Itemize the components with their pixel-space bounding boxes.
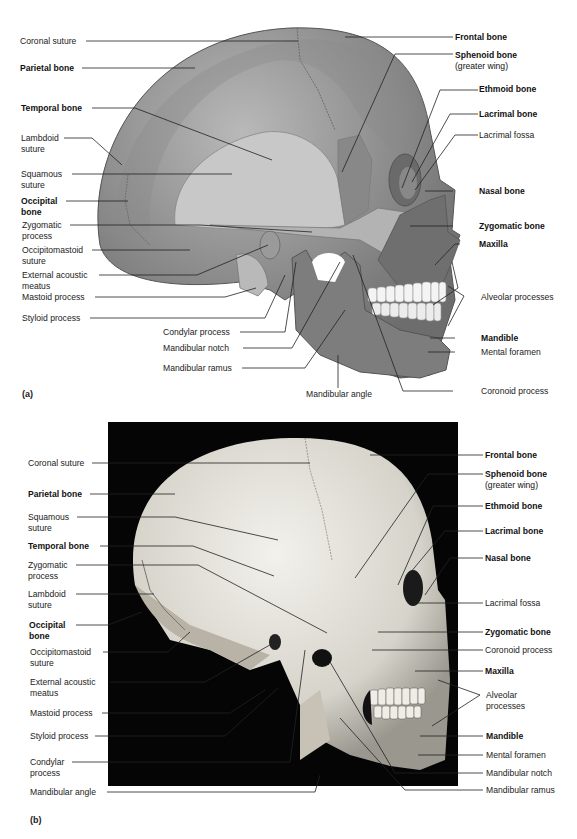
label-ethmoid-bone-a: Ethmoid bone bbox=[479, 84, 536, 95]
label-zygomatic-process-b: Zygomaticprocess bbox=[28, 560, 68, 581]
label-styloid-process-b: Styloid process bbox=[30, 731, 88, 742]
label-occipitomastoid-suture-b: Occipitomastoidsuture bbox=[30, 647, 91, 668]
label-lambdoid-suture-b: Lambdoidsuture bbox=[28, 589, 66, 610]
label-squamous-suture-b: Squamoussuture bbox=[28, 512, 69, 533]
label-lacrimal-bone-a: Lacrimal bone bbox=[479, 109, 537, 120]
label-sphenoid-bone-b: Sphenoid bone(greater wing) bbox=[485, 469, 547, 490]
label-alveolar-processes-b: Alveolarprocesses bbox=[486, 690, 525, 711]
label-zygomatic-process-a: Zygomaticprocess bbox=[22, 220, 62, 241]
label-styloid-process-a: Styloid process bbox=[22, 313, 80, 324]
label-frontal-bone-a: Frontal bone bbox=[455, 32, 507, 43]
label-nasal-bone-b: Nasal bone bbox=[485, 553, 531, 564]
label-occipital-bone-b: Occipitalbone bbox=[29, 620, 65, 641]
label-mandible-b: Mandible bbox=[486, 731, 523, 742]
label-external-acoustic-meatus-a: External acousticmeatus bbox=[22, 270, 87, 291]
label-temporal-bone-b: Temporal bone bbox=[28, 541, 89, 552]
label-lacrimal-bone-b: Lacrimal bone bbox=[485, 526, 543, 537]
label-coronoid-process-b: Coronoid process bbox=[485, 645, 552, 656]
label-mental-foramen-a: Mental foramen bbox=[481, 347, 541, 358]
label-lacrimal-fossa-a: Lacrimal fossa bbox=[479, 130, 534, 141]
label-coronal-suture-b: Coronal suture bbox=[28, 458, 84, 469]
label-mastoid-process-b: Mastoid process bbox=[30, 708, 93, 719]
label-coronoid-process-a: Coronoid process bbox=[481, 386, 548, 397]
label-lambdoid-suture-a: Lambdoidsuture bbox=[21, 133, 59, 154]
label-occipital-bone-a: Occipitalbone bbox=[21, 196, 57, 217]
label-mandibular-angle-a: Mandibular angle bbox=[306, 389, 372, 400]
label-condylar-process-b: Condylarprocess bbox=[30, 757, 64, 778]
label-temporal-bone-a: Temporal bone bbox=[21, 103, 82, 114]
panel-letter-b: (b) bbox=[30, 815, 42, 825]
label-maxilla-b: Maxilla bbox=[485, 666, 514, 677]
label-external-acoustic-meatus-b: External acousticmeatus bbox=[30, 677, 95, 698]
label-mandibular-ramus-b: Mandibular ramus bbox=[486, 785, 555, 796]
label-mastoid-process-a: Mastoid process bbox=[22, 292, 85, 303]
label-parietal-bone-a: Parietal bone bbox=[20, 63, 74, 74]
label-alveolar-processes-a: Alveolar processes bbox=[481, 292, 554, 303]
label-condylar-process-a: Condylar process bbox=[163, 327, 230, 338]
label-maxilla-a: Maxilla bbox=[479, 239, 508, 250]
label-mandibular-notch-b: Mandibular notch bbox=[486, 768, 552, 779]
label-sphenoid-bone-a: Sphenoid bone(greater wing) bbox=[455, 50, 517, 71]
label-ethmoid-bone-b: Ethmoid bone bbox=[485, 501, 542, 512]
label-squamous-suture-a: Squamoussuture bbox=[21, 169, 62, 190]
label-mandibular-notch-a: Mandibular notch bbox=[163, 343, 229, 354]
label-mental-foramen-b: Mental foramen bbox=[486, 750, 546, 761]
label-mandible-a: Mandible bbox=[481, 333, 518, 344]
label-occipitomastoid-suture-a: Occipitomastoidsuture bbox=[22, 245, 83, 266]
label-frontal-bone-b: Frontal bone bbox=[485, 450, 537, 461]
label-lacrimal-fossa-b: Lacrimal fossa bbox=[485, 598, 540, 609]
label-nasal-bone-a: Nasal bone bbox=[479, 186, 525, 197]
label-mandibular-ramus-a: Mandibular ramus bbox=[163, 363, 232, 374]
label-zygomatic-bone-a: Zygomatic bone bbox=[479, 221, 545, 232]
label-coronal-suture-a: Coronal suture bbox=[20, 36, 76, 47]
label-parietal-bone-b: Parietal bone bbox=[28, 489, 82, 500]
panel-letter-a: (a) bbox=[22, 389, 33, 399]
label-zygomatic-bone-b: Zygomatic bone bbox=[485, 627, 551, 638]
label-mandibular-angle-b: Mandibular angle bbox=[30, 787, 96, 798]
